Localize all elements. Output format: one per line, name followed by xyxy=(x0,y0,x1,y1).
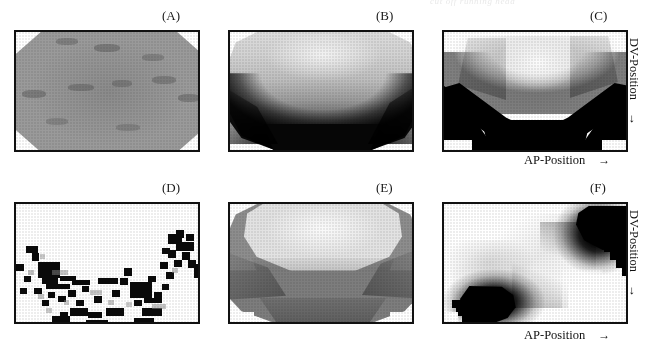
panel-d: (D) xyxy=(14,202,200,324)
panel-b-label: (B) xyxy=(376,9,393,22)
ap-axis-label-bottom: AP-Position → xyxy=(524,329,610,342)
panel-f-plot xyxy=(444,204,626,322)
dv-axis-text: DV-Position xyxy=(627,38,641,100)
panel-d-frame xyxy=(14,202,200,324)
ap-axis-arrow-icon-bottom: → xyxy=(598,328,610,342)
panel-d-label: (D) xyxy=(162,181,180,194)
dv-axis-label-bottom: DV-Position → xyxy=(627,210,640,297)
panel-f-frame xyxy=(442,202,628,324)
panel-a-label: (A) xyxy=(162,9,180,22)
panel-e-plot xyxy=(230,204,412,322)
panel-f-label: (F) xyxy=(590,181,606,194)
panel-c-plot xyxy=(444,32,626,150)
panel-b: (B) xyxy=(228,30,414,152)
panel-f: (F) xyxy=(442,202,628,324)
panel-e-label: (E) xyxy=(376,181,393,194)
panel-b-plot xyxy=(230,32,412,150)
figure-container: cut off running head (A) xyxy=(0,0,650,353)
dv-axis-arrow-icon: → xyxy=(627,113,641,125)
panel-e-frame xyxy=(228,202,414,324)
panel-a-plot xyxy=(16,32,198,150)
dv-axis-text-bottom: DV-Position xyxy=(627,210,641,272)
dv-axis-arrow-icon-bottom: → xyxy=(627,285,641,297)
panel-c: (C) xyxy=(442,30,628,152)
ap-axis-text: AP-Position xyxy=(524,153,585,167)
panel-c-frame xyxy=(442,30,628,152)
panel-d-plot xyxy=(16,204,198,322)
panel-a: (A) xyxy=(14,30,200,152)
dv-axis-label-top: DV-Position → xyxy=(627,38,640,125)
panel-e: (E) xyxy=(228,202,414,324)
ap-axis-text-bottom: AP-Position xyxy=(524,328,585,342)
panel-c-label: (C) xyxy=(590,9,607,22)
panel-b-frame xyxy=(228,30,414,152)
panel-a-frame xyxy=(14,30,200,152)
page-header-remnant: cut off running head xyxy=(430,0,645,6)
ap-axis-arrow-icon: → xyxy=(598,153,610,167)
ap-axis-label-top: AP-Position → xyxy=(524,154,610,167)
